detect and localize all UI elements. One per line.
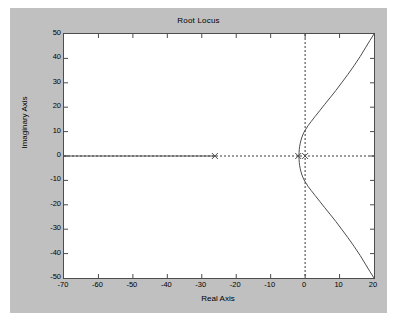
x-tick-label: -70	[48, 280, 78, 289]
locus-complex-branch-lower	[299, 156, 374, 278]
y-axis-label: Imaginary Axis	[20, 73, 29, 173]
y-tick-label: -30	[35, 223, 61, 232]
x-tick-label: -30	[186, 280, 216, 289]
chart-title: Root Locus	[10, 16, 387, 25]
y-tick-label: -10	[35, 174, 61, 183]
y-tick-label: -20	[35, 199, 61, 208]
y-tick-label: 50	[35, 28, 61, 37]
locus-complex-branch-upper	[299, 34, 374, 156]
x-tick-label: -60	[82, 280, 112, 289]
figure-window: Root Locus Imaginary Axis Real Axis 5040…	[10, 8, 387, 313]
x-tick-label: -40	[151, 280, 181, 289]
x-tick-label: 0	[289, 280, 319, 289]
plot-area	[63, 33, 375, 279]
y-tick-label: 20	[35, 101, 61, 110]
x-tick-label: 10	[324, 280, 354, 289]
y-tick-label: 40	[35, 52, 61, 61]
y-tick-label: -40	[35, 248, 61, 257]
x-tick-label: -20	[220, 280, 250, 289]
y-tick-label: 10	[35, 126, 61, 135]
x-axis-label: Real Axis	[63, 294, 373, 303]
x-tick-label: -50	[117, 280, 147, 289]
y-tick-label: 0	[35, 150, 61, 159]
y-tick-label: 30	[35, 77, 61, 86]
root-locus-plot	[64, 34, 374, 278]
x-tick-label: -10	[255, 280, 285, 289]
locus-branches	[64, 34, 374, 278]
x-tick-label: 20	[358, 280, 388, 289]
